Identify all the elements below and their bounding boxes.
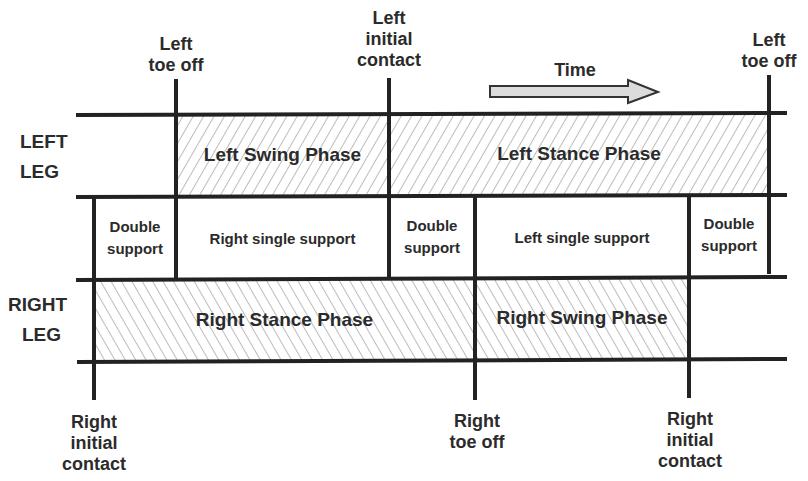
event-left-toe-off-1: Left toe off	[136, 34, 216, 76]
event-left-toe-off-2: Left toe off	[729, 30, 808, 72]
time-label: Time	[530, 60, 620, 81]
right-swing-phase: Right Swing Phase	[477, 307, 687, 329]
double-support-2: Double support	[391, 215, 473, 259]
double-support-3: Double support	[691, 213, 767, 257]
double-support-1: Double support	[96, 216, 174, 260]
right-single-support: Right single support	[178, 228, 387, 250]
right-stance-phase: Right Stance Phase	[96, 309, 473, 331]
left-single-support: Left single support	[477, 227, 687, 249]
event-right-toe-off: Right toe off	[437, 411, 517, 453]
left-swing-phase: Left Swing Phase	[178, 144, 387, 166]
left-stance-phase: Left Stance Phase	[391, 143, 767, 165]
left-leg-label: LEFT LEG	[20, 127, 68, 187]
time-arrow-icon	[490, 80, 658, 103]
right-leg-label: RIGHT LEG	[8, 290, 67, 350]
event-left-initial-contact: Left initial contact	[344, 8, 434, 71]
event-right-initial-contact-1: Right initial contact	[54, 412, 134, 475]
event-right-initial-contact-2: Right initial contact	[650, 409, 730, 472]
